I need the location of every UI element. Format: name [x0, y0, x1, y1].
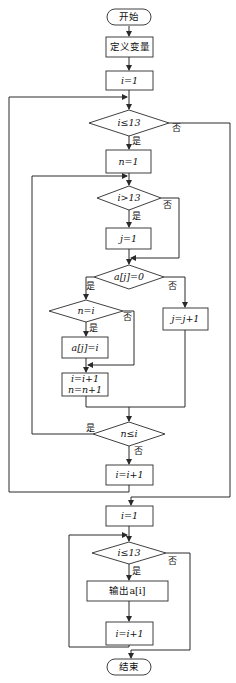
- incr-i-outer-box: i=i+1: [106, 465, 153, 485]
- no-label: 否: [123, 312, 132, 322]
- assign-aj-i-label: a[j]=i: [71, 342, 98, 353]
- cond-n-le-i-diamond: n≤i: [93, 422, 165, 446]
- no-label: 否: [134, 446, 143, 456]
- no-label: 否: [163, 200, 172, 210]
- yes-label: 是: [132, 136, 141, 146]
- cond-i-le-13-label: i≤13: [117, 117, 140, 128]
- assign-aj-i-box: a[j]=i: [62, 337, 108, 358]
- cond-aj-eq-0-diamond: a[j]=0: [94, 265, 164, 289]
- define-vars-label: 定义变量: [110, 41, 150, 52]
- cond-i-le-13-diamond: i≤13: [89, 110, 169, 136]
- cond-i-gt-13-diamond: i>13: [97, 186, 161, 210]
- init-i-box: i=1: [106, 71, 153, 90]
- init-i-2-label: i=1: [121, 510, 138, 521]
- incr-i-n-box: i=i+1 n=n+1: [62, 373, 108, 396]
- end-terminal: 结束: [107, 659, 151, 675]
- cond-n-eq-i-label: n=i: [77, 305, 94, 316]
- incr-n-label: n=n+1: [68, 384, 102, 395]
- incr-i-outer-label: i=i+1: [115, 469, 143, 480]
- end-label: 结束: [119, 661, 139, 672]
- yes-label: 是: [132, 566, 141, 576]
- incr-j-label: j=j+1: [170, 313, 200, 324]
- no-label: 否: [172, 123, 181, 133]
- yes-label: 是: [86, 423, 95, 433]
- cond-n-eq-i-diamond: n=i: [49, 300, 123, 322]
- yes-label: 是: [89, 323, 98, 333]
- cond-n-le-i-label: n≤i: [120, 428, 137, 439]
- start-terminal: 开始: [107, 9, 151, 25]
- init-j-label: j=1: [118, 233, 137, 244]
- no-label: 否: [168, 556, 177, 566]
- no-label: 否: [168, 281, 177, 291]
- init-j-box: j=1: [106, 228, 151, 249]
- define-vars-box: 定义变量: [106, 37, 153, 57]
- cond-i-le-13-2-diamond: i≤13: [92, 542, 166, 564]
- incr-i-2-box: i=i+1: [106, 622, 153, 645]
- cond-aj-eq-0-label: a[j]=0: [114, 271, 144, 282]
- incr-j-box: j=j+1: [163, 308, 208, 330]
- init-i-2-box: i=1: [106, 506, 153, 526]
- flowchart: 开始 定义变量 i=1 i≤13 是 否 n=1 i>13 是 否 j=1 a[…: [0, 0, 236, 683]
- init-i-label: i=1: [121, 75, 138, 86]
- incr-i-label: i=i+1: [71, 373, 99, 384]
- cond-i-gt-13-label: i>13: [117, 192, 140, 203]
- cond-i-le-13-2-label: i≤13: [117, 547, 140, 558]
- incr-i-2-label: i=i+1: [115, 628, 143, 639]
- yes-label: 是: [132, 211, 141, 221]
- output-ai-label: 输出a[i]: [109, 585, 145, 596]
- output-ai-box: 输出a[i]: [87, 581, 168, 601]
- init-n-box: n=1: [106, 150, 151, 173]
- yes-label: 是: [86, 281, 95, 291]
- start-label: 开始: [119, 11, 139, 22]
- init-n-label: n=1: [118, 156, 138, 167]
